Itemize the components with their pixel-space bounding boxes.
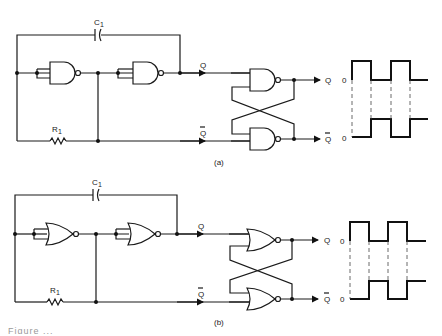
nand-gate-1-icon: [50, 62, 75, 84]
latch-a: Q Q: [231, 69, 331, 150]
signal-q-label: Q: [198, 222, 204, 231]
nor-gate-1-icon: [46, 223, 73, 245]
output-q-label: Q: [324, 236, 330, 245]
waveform-b: 0 0: [340, 222, 426, 304]
svg-text:0: 0: [342, 76, 347, 85]
inverter-bubble-icon: [76, 71, 81, 76]
signal-q-bar-label: Q: [198, 290, 204, 299]
nor-latch-bottom-icon: [247, 288, 275, 310]
signal-q-label: Q: [200, 61, 206, 70]
capacitor-c1-icon: [93, 189, 99, 201]
output-q-bar-label: Q: [324, 295, 330, 304]
svg-text:0: 0: [342, 134, 347, 143]
waveform-a: 0 0: [342, 61, 428, 143]
circuit-diagram: C 1 R 1: [0, 0, 442, 336]
svg-text:1: 1: [100, 21, 104, 28]
latch-b: Q Q: [229, 229, 330, 310]
svg-text:1: 1: [58, 128, 62, 135]
svg-text:0: 0: [340, 237, 345, 246]
oscillator-a: C 1 R 1: [15, 18, 250, 144]
panel-b: C 1 R 1 Q: [13, 178, 426, 327]
capacitor-c1-icon: [95, 29, 101, 41]
resistor-r1-icon: [50, 138, 66, 144]
nand-latch-bottom-icon: [250, 128, 275, 150]
svg-text:1: 1: [56, 289, 60, 296]
nand-latch-top-icon: [250, 69, 275, 91]
svg-text:1: 1: [98, 181, 102, 188]
oscillator-b: C 1 R 1 Q: [13, 178, 250, 305]
output-q-bar-label: Q: [325, 135, 331, 144]
nand-gate-2-icon: [133, 62, 158, 84]
nor-gate-2-icon: [128, 223, 155, 245]
panel-b-label: (b): [214, 318, 224, 327]
nor-latch-top-icon: [247, 229, 275, 251]
resistor-r1-icon: [47, 299, 63, 305]
panel-a-label: (a): [214, 158, 224, 167]
signal-q-bar-label: Q: [200, 129, 206, 138]
figure-caption: Figure ...: [8, 326, 188, 334]
svg-text:0: 0: [340, 295, 345, 304]
output-q-label: Q: [325, 76, 331, 85]
panel-a: C 1 R 1: [15, 18, 428, 167]
